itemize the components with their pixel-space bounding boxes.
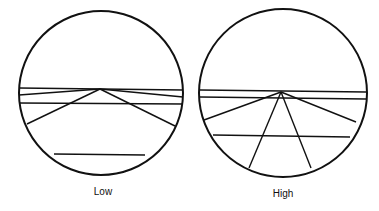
low-ray-lines bbox=[19, 88, 183, 155]
low-diagram bbox=[19, 11, 183, 175]
high-line-3 bbox=[281, 92, 356, 122]
high-line-5 bbox=[281, 92, 311, 168]
high-line-0 bbox=[200, 90, 366, 92]
high-line-6 bbox=[213, 135, 350, 137]
high-label: High bbox=[253, 188, 313, 199]
low-line-6 bbox=[54, 154, 145, 155]
diagram-canvas bbox=[0, 0, 379, 211]
high-diagram bbox=[199, 9, 367, 177]
low-label: Low bbox=[73, 186, 133, 197]
low-line-3 bbox=[19, 103, 183, 104]
high-line-2 bbox=[204, 92, 281, 120]
high-ray-lines bbox=[200, 90, 366, 168]
high-line-4 bbox=[249, 92, 281, 168]
